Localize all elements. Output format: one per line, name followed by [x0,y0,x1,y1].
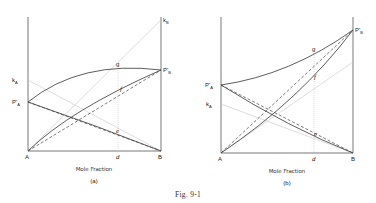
xlabel-a: Mole Fraction [76,166,113,172]
label-kA-a: kA [12,77,18,85]
raoult-A-dashed-a [28,102,161,151]
label-B-b: B [351,156,355,162]
label-kA-b: kA [206,101,212,109]
label-g-b: g [312,46,315,52]
label-g-a: g [116,61,119,67]
sublabel-a: (a) [90,178,97,184]
henry-line-kA-a [28,80,161,151]
label-PA-b: P'A [205,82,213,90]
label-kB-a: kB [163,17,169,25]
sublabel-b: (b) [283,180,290,186]
henry-line-kB-a [28,20,161,151]
total-pressure-curve-a [28,68,161,102]
label-PB-a: P'B [163,67,171,75]
panel-a: kA P'A kB P'B g f e A B d Mole Fraction … [12,17,171,184]
raoult-A-dashed-b [221,85,353,153]
raoult-B-dashed-b [221,30,353,153]
figure-9-1: kA P'A kB P'B g f e A B d Mole Fraction … [0,0,376,203]
label-d-b: d [312,155,316,163]
label-d-a: d [116,153,120,161]
label-A-b: A [218,156,222,162]
label-f-a: f [120,85,123,93]
label-PB-b: P'B [355,27,363,35]
label-e-b: e [314,130,317,138]
raoult-B-dashed-a [28,70,161,151]
label-f-b: f [314,73,317,81]
xlabel-b: Mole Fraction [269,168,306,174]
label-B-a: B [158,154,162,160]
panel-b: P'A kA P'B g f e A B d Mole Fraction (b) [205,17,363,186]
label-PA-a: P'A [12,99,20,107]
label-A-a: A [25,154,29,160]
figure-caption: Fig. 9-1 [175,190,201,199]
total-pressure-curve-b [221,30,353,85]
label-e-a: e [116,127,119,135]
henry-line-kA-b [221,104,353,153]
